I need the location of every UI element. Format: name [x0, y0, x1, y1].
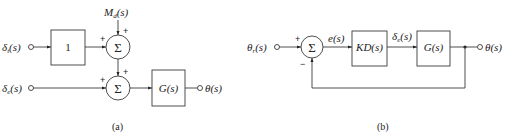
- plus-sign: +: [123, 26, 128, 36]
- arrowhead: [102, 87, 106, 90]
- disturbance-label: Md(s): [103, 6, 129, 20]
- plus-sign: +: [123, 67, 128, 77]
- gain-block-label: 1: [65, 41, 71, 53]
- error-signal-label: e(s): [328, 32, 345, 45]
- output-label: θ(s): [485, 41, 502, 54]
- input-port-top: [29, 45, 34, 50]
- block-diagrams: δt(s) 1 Md(s) Σ + + δe(s) Σ + +: [0, 0, 508, 138]
- sigma-symbol: Σ: [308, 40, 316, 55]
- input-port-bottom: [29, 86, 34, 91]
- arrowhead: [297, 46, 301, 49]
- arrowhead: [413, 46, 417, 49]
- caption-a: (a): [112, 121, 123, 133]
- arrowhead: [117, 72, 120, 76]
- input-delta-e-label: δe(s): [2, 82, 22, 96]
- plant-block-label: G(s): [424, 41, 444, 54]
- plant-block-label: G(s): [159, 82, 179, 95]
- plus-sign: +: [100, 75, 105, 85]
- output-label: θ(s): [205, 82, 222, 95]
- diagram-a: δt(s) 1 Md(s) Σ + + δe(s) Σ + +: [2, 6, 222, 133]
- output-port: [198, 86, 203, 91]
- sigma-symbol: Σ: [114, 81, 122, 96]
- control-signal-label: δe(s): [392, 30, 412, 44]
- plus-sign: +: [295, 34, 300, 44]
- arrowhead: [117, 31, 120, 35]
- reference-input-label: θr(s): [247, 41, 267, 55]
- minus-sign: −: [300, 59, 305, 69]
- output-port: [478, 45, 483, 50]
- arrowhead: [311, 58, 314, 62]
- controller-block-label: KD(s): [355, 41, 383, 54]
- arrowhead: [102, 46, 106, 49]
- arrowhead: [348, 46, 352, 49]
- arrowhead: [47, 46, 51, 49]
- caption-b: (b): [377, 121, 389, 133]
- input-port: [275, 45, 280, 50]
- input-delta-t-label: δt(s): [2, 41, 21, 55]
- arrowhead: [148, 87, 152, 90]
- sigma-symbol: Σ: [114, 40, 122, 55]
- plus-sign: +: [100, 34, 105, 44]
- diagram-b: θr(s) Σ + − e(s) KD(s) δe(s) G(s) θ(s) (…: [247, 30, 502, 133]
